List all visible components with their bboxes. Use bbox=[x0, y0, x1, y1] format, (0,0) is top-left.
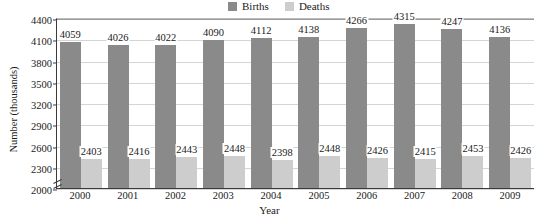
x-axis-tick-label: 2006 bbox=[343, 190, 391, 201]
bar-value-label: 2453 bbox=[461, 143, 484, 154]
legend-item-births: Births bbox=[228, 1, 269, 12]
x-axis-tick-label: 2002 bbox=[152, 190, 200, 201]
bar-deaths: 2448 bbox=[224, 156, 245, 188]
bar-value-label: 2426 bbox=[366, 145, 389, 156]
bar-births: 4315 bbox=[394, 24, 415, 188]
bar-group: 40222443 bbox=[152, 19, 200, 188]
bar-value-label: 4022 bbox=[154, 32, 177, 43]
bar-deaths: 2416 bbox=[129, 159, 150, 188]
x-axis-tick-label: 2000 bbox=[56, 190, 104, 201]
plot-area: 200023002600290032003500380041004400 405… bbox=[56, 18, 534, 188]
bar-deaths: 2426 bbox=[510, 158, 531, 188]
bar-births: 4026 bbox=[108, 45, 129, 189]
bar-births: 4090 bbox=[203, 40, 224, 188]
bar-value-label: 4138 bbox=[297, 24, 320, 35]
chart-legend: Births Deaths bbox=[228, 1, 329, 12]
x-axis-line bbox=[56, 188, 534, 189]
x-axis-tick-label: 2007 bbox=[391, 190, 439, 201]
x-axis-tick-label: 2001 bbox=[104, 190, 152, 201]
bars-layer: 4059240340262416402224434090244841122398… bbox=[57, 19, 534, 188]
bar-group: 41362426 bbox=[486, 19, 534, 188]
bar-value-label: 4266 bbox=[345, 15, 368, 26]
bar-births: 4022 bbox=[155, 45, 176, 188]
y-axis-title: Number (thousands) bbox=[8, 40, 19, 180]
bar-group: 42662426 bbox=[343, 19, 391, 188]
bar-births: 4247 bbox=[441, 29, 462, 188]
bar-births: 4112 bbox=[251, 38, 272, 188]
bar-value-label: 2443 bbox=[175, 144, 198, 155]
bar-deaths: 2426 bbox=[367, 158, 388, 188]
bar-deaths: 2443 bbox=[176, 157, 197, 188]
bar-value-label: 4247 bbox=[440, 16, 463, 27]
bar-value-label: 2448 bbox=[223, 143, 246, 154]
bar-value-label: 4059 bbox=[59, 29, 82, 40]
bar-value-label: 4112 bbox=[250, 25, 273, 36]
bar-value-label: 4090 bbox=[202, 27, 225, 38]
x-axis-tick-label: 2005 bbox=[295, 190, 343, 201]
bar-group: 41122398 bbox=[248, 19, 296, 188]
bar-value-label: 2426 bbox=[509, 145, 532, 156]
bar-group: 42472453 bbox=[439, 19, 487, 188]
bar-group: 43152415 bbox=[391, 19, 439, 188]
x-axis-tick-label: 2003 bbox=[199, 190, 247, 201]
legend-item-deaths: Deaths bbox=[285, 1, 330, 12]
bar-group: 41382448 bbox=[296, 19, 344, 188]
bar-deaths: 2453 bbox=[462, 156, 483, 188]
bar-deaths: 2403 bbox=[81, 159, 102, 188]
bar-value-label: 2403 bbox=[80, 146, 103, 157]
bar-births: 4266 bbox=[346, 28, 367, 189]
x-axis-tick-label: 2008 bbox=[438, 190, 486, 201]
legend-swatch-births bbox=[228, 2, 237, 11]
legend-label-births: Births bbox=[242, 1, 269, 12]
bar-value-label: 2398 bbox=[271, 147, 294, 158]
bar-group: 40592403 bbox=[57, 19, 105, 188]
bar-value-label: 4026 bbox=[107, 32, 130, 43]
bar-group: 40262416 bbox=[105, 19, 153, 188]
bar-deaths: 2415 bbox=[415, 159, 436, 188]
bar-chart: Births Deaths Number (thousands) 2000230… bbox=[0, 0, 539, 224]
bar-deaths: 2398 bbox=[272, 160, 293, 188]
bar-births: 4136 bbox=[489, 37, 510, 188]
bar-value-label: 4315 bbox=[393, 11, 416, 22]
bar-value-label: 2448 bbox=[318, 143, 341, 154]
x-axis-tick-label: 2009 bbox=[486, 190, 534, 201]
bar-births: 4138 bbox=[298, 37, 319, 188]
bar-group: 40902448 bbox=[200, 19, 248, 188]
x-axis-title: Year bbox=[0, 204, 539, 216]
bar-births: 4059 bbox=[60, 42, 81, 188]
bar-value-label: 4136 bbox=[488, 24, 511, 35]
x-axis-tick-label: 2004 bbox=[247, 190, 295, 201]
bar-value-label: 2416 bbox=[128, 146, 151, 157]
bar-deaths: 2448 bbox=[319, 156, 340, 188]
x-axis-tick-labels: 2000200120022003200420052006200720082009 bbox=[56, 190, 534, 201]
bar-value-label: 2415 bbox=[414, 146, 437, 157]
legend-label-deaths: Deaths bbox=[299, 1, 330, 12]
legend-swatch-deaths bbox=[285, 2, 294, 11]
